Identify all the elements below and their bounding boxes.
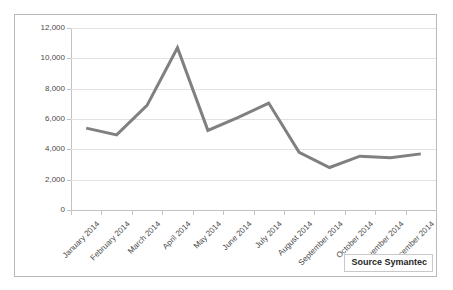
- y-axis-tick: [67, 180, 71, 181]
- series-line: [86, 48, 421, 168]
- x-axis-tick: [223, 211, 224, 215]
- x-axis-category-label: March 2014: [54, 219, 162, 290]
- x-axis-category-label: July 2014: [90, 219, 284, 290]
- y-axis-tick: [67, 149, 71, 150]
- y-axis-tick: [67, 89, 71, 90]
- x-axis-category-label: August 2014: [99, 219, 315, 290]
- x-axis-tick: [406, 211, 407, 215]
- x-axis-tick: [436, 211, 437, 215]
- x-axis-tick: [101, 211, 102, 215]
- x-axis-tick: [162, 211, 163, 215]
- y-axis-tick: [67, 58, 71, 59]
- y-axis-labels: 02,0004,0006,0008,00010,00012,000: [15, 15, 65, 278]
- x-axis-category-label: April 2014: [63, 219, 193, 290]
- y-axis-tick-label: 6,000: [19, 115, 65, 123]
- x-axis-tick: [254, 211, 255, 215]
- x-axis-tick: [375, 211, 376, 215]
- x-axis-category-label: May 2014: [72, 219, 223, 290]
- chart-frame: 02,0004,0006,0008,00010,00012,000 Januar…: [14, 14, 437, 277]
- x-axis-category-label: October 2014: [116, 219, 375, 290]
- y-axis-tick: [67, 119, 71, 120]
- y-axis-tick-label: 2,000: [19, 176, 65, 184]
- y-axis-tick: [67, 28, 71, 29]
- source-label: Source Symantec: [351, 257, 427, 267]
- x-axis-tick: [284, 211, 285, 215]
- x-axis-category-label: June 2014: [81, 219, 254, 290]
- x-axis-tick: [71, 211, 72, 215]
- x-axis-category-label: September 2014: [107, 219, 344, 290]
- x-axis-tick: [132, 211, 133, 215]
- y-axis-tick-label: 0: [19, 206, 65, 214]
- x-axis-tick: [193, 211, 194, 215]
- y-axis-tick-label: 8,000: [19, 85, 65, 93]
- y-axis-tick-label: 4,000: [19, 145, 65, 153]
- source-annotation: Source Symantec: [344, 254, 433, 272]
- series-line-chart: [71, 28, 436, 211]
- x-axis-tick: [345, 211, 346, 215]
- y-axis-tick-label: 12,000: [19, 24, 65, 32]
- x-axis-tick: [314, 211, 315, 215]
- y-axis-tick-label: 10,000: [19, 54, 65, 62]
